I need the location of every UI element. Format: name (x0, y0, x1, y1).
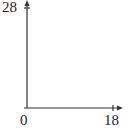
y-tick-label-max: 28 (2, 0, 17, 15)
chart: 28 0 18 (0, 0, 136, 130)
x-tick-label-max: 18 (104, 113, 119, 128)
chart-axes (0, 0, 136, 130)
x-axis-arrow-icon (117, 106, 123, 111)
x-tick-label-origin: 0 (20, 113, 28, 128)
y-axis-arrow-icon (25, 0, 30, 6)
